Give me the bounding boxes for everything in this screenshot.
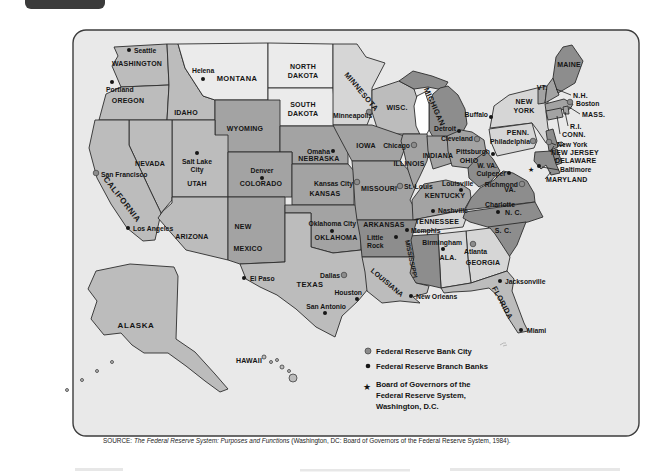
legend-star-icon: ★ <box>363 382 371 392</box>
state-label: TENNESSEE <box>415 218 459 225</box>
city-label: Philadelphia <box>490 138 530 146</box>
city-label: Omaha <box>307 148 330 155</box>
state-label: W. VA. <box>477 162 497 169</box>
state-label: MAINE <box>557 61 581 68</box>
state-shape-new-mexico <box>228 197 285 264</box>
portland-branch-dot <box>110 80 114 84</box>
state-label: IDAHO <box>174 109 198 116</box>
city-label: Minneapolis <box>333 112 372 120</box>
boston-bank-dot <box>567 99 573 105</box>
hawaii-island <box>276 359 279 362</box>
legend-bank-label: Federal Reserve Bank City <box>376 347 473 356</box>
source-line: SOURCE: The Federal Reserve System: Purp… <box>103 437 511 445</box>
state-label-nh: N.H. <box>573 92 588 99</box>
city-label: Dallas <box>320 272 340 279</box>
helena-branch-dot <box>201 77 205 81</box>
city-label: Helena <box>192 67 215 74</box>
pittsburgh-branch-dot <box>491 152 495 156</box>
legend-branch-dot-icon <box>366 364 371 369</box>
city-label: LittleRock <box>367 234 384 249</box>
salt-lake-city-branch-dot <box>195 151 199 155</box>
chicago-bank-dot <box>411 142 417 148</box>
houston-branch-dot <box>355 297 359 301</box>
city-label: Pittsburgh <box>456 148 490 156</box>
city-label: San Francisco <box>101 171 147 178</box>
state-label: ARKANSAS <box>363 221 404 228</box>
culpeper-branch-dot <box>507 171 511 175</box>
city-label: San Antonio <box>306 303 346 310</box>
el-paso-branch-dot <box>242 276 246 280</box>
seattle-branch-dot <box>127 48 131 52</box>
state-label: VT. <box>537 84 548 91</box>
state-label-nj: NEW JERSEY <box>551 149 599 156</box>
hawaii-island <box>262 355 266 359</box>
city-label: Richmond <box>485 181 518 188</box>
state-label: INDIANA <box>423 152 454 159</box>
detroit-branch-dot <box>457 129 461 133</box>
louisville-branch-dot <box>459 188 463 192</box>
state-label: WYOMING <box>227 125 264 132</box>
board-of-governors-star-icon: ★ <box>528 166 534 173</box>
hawaii-island <box>289 374 297 382</box>
philadelphia-bank-dot <box>530 138 536 144</box>
memphis-branch-dot <box>405 228 409 232</box>
state-label: OHIO <box>460 157 479 164</box>
charlotte-branch-dot <box>496 210 500 214</box>
city-label: St. Louis <box>404 183 433 190</box>
state-label: WISC. <box>386 104 407 111</box>
state-label: N. C. <box>505 209 522 216</box>
source-rest: (Washington, DC: Board of Governors of t… <box>290 437 511 445</box>
city-label: Cleveland <box>441 135 473 142</box>
city-label: Jacksonville <box>505 278 546 285</box>
state-label: NEW <box>235 223 252 230</box>
legend-bank-dot-icon <box>365 348 371 354</box>
hawaii-island <box>270 361 273 364</box>
baltimore-branch-dot <box>537 164 541 168</box>
st-louis-bank-dot <box>397 183 403 189</box>
state-label-conn: CONN. <box>562 131 586 138</box>
city-label: Chicago <box>383 142 410 150</box>
state-shape-rhode-island <box>563 106 569 114</box>
state-label-maryland: MARYLAND <box>546 176 587 183</box>
state-label: COLORADO <box>240 180 283 187</box>
city-label: Nashville <box>438 207 468 214</box>
state-label: TEXAS <box>296 280 323 289</box>
jacksonville-branch-dot <box>498 279 502 283</box>
omaha-branch-dot <box>331 149 335 153</box>
state-label: ALA. <box>439 254 456 261</box>
city-label: Atlanta <box>464 248 487 255</box>
little-rock-branch-dot <box>394 235 398 239</box>
birmingham-branch-dot <box>441 247 445 251</box>
state-label-mass: MASS. <box>582 111 605 118</box>
state-label: PENN. <box>507 129 529 136</box>
cutoff-caption-remnant <box>300 469 410 472</box>
cleveland-bank-dot <box>474 136 480 142</box>
los-angeles-branch-dot <box>126 226 130 230</box>
atlanta-bank-dot <box>470 241 476 247</box>
city-label: Boston <box>576 100 599 107</box>
richmond-bank-dot <box>519 181 525 187</box>
aleutian-island <box>111 361 114 364</box>
city-label: Memphis <box>411 227 441 235</box>
page: { "theme": { "panel": "#e9e9e9", "panel_… <box>0 0 651 473</box>
city-label: Miami <box>527 327 546 334</box>
state-label: GEORGIA <box>466 259 500 266</box>
state-label: KENTUCKY <box>425 192 466 199</box>
buffalo-branch-dot <box>489 115 493 119</box>
state-label: NEBRASKA <box>298 155 339 162</box>
city-label: Portland <box>106 86 134 93</box>
state-label: NEVADA <box>135 160 165 167</box>
city-label: New York <box>557 141 588 148</box>
miami-branch-dot <box>519 328 523 332</box>
state-label: KANSAS <box>310 190 341 197</box>
city-label: Culpeper <box>477 170 507 178</box>
city-label: Seattle <box>134 47 157 54</box>
city-label: Los Angeles <box>133 225 173 233</box>
state-label: MISSOURI <box>361 185 397 192</box>
city-label: Charlotte <box>485 201 515 208</box>
state-label: OKLAHOMA <box>315 234 358 241</box>
state-label: WASHINGTON <box>112 60 162 67</box>
source-title: The Federal Reserve System: Purposes and… <box>134 437 290 445</box>
source-prefix: SOURCE: <box>103 437 134 444</box>
state-label: HAWAII <box>236 357 262 364</box>
